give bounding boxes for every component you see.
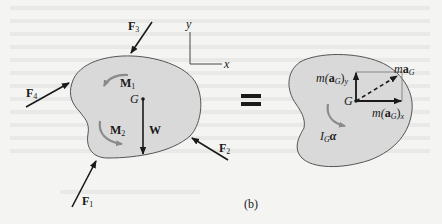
free-body-shape bbox=[70, 56, 200, 158]
axis-y-label: y bbox=[186, 18, 191, 30]
moment-m2-label: M2 bbox=[110, 124, 125, 138]
moment-m1-label: M1 bbox=[120, 77, 135, 91]
force-f3-label: F3 bbox=[128, 20, 139, 34]
axis-x-label: x bbox=[224, 58, 229, 70]
force-f1-label: F1 bbox=[82, 195, 93, 209]
ma-g-label: maG bbox=[394, 63, 414, 77]
kinetic-center-of-mass-point bbox=[354, 99, 358, 103]
figure-caption: (b) bbox=[244, 198, 258, 210]
kinetic-center-of-mass-label: G bbox=[344, 95, 353, 107]
force-f4-label: F4 bbox=[26, 87, 37, 101]
ma-x-label: m(aG)x bbox=[372, 107, 404, 121]
force-f2-label: F2 bbox=[219, 142, 230, 156]
center-of-mass-label: G bbox=[130, 93, 139, 105]
inertia-moment-label: IGα bbox=[320, 130, 336, 144]
ma-y-label: m(aG)y bbox=[316, 72, 348, 86]
weight-label: W bbox=[149, 124, 161, 136]
